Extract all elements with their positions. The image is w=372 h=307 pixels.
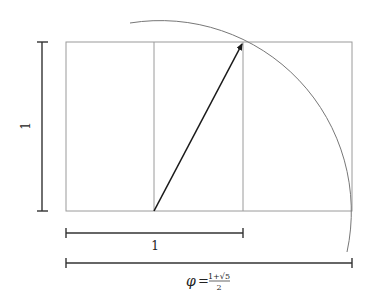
golden-ratio-diagram: 1 1 φ = 1+√5 2 — [0, 0, 372, 307]
phi-numerator: 1+√5 — [208, 272, 230, 281]
phi-denominator: 2 — [216, 283, 221, 292]
square-width-dimension — [66, 228, 243, 238]
vertical-side-label: 1 — [19, 122, 33, 130]
square-side-label: 1 — [151, 239, 159, 253]
phi-symbol: φ — [186, 273, 196, 289]
radius-arc — [130, 21, 351, 252]
radius-arrow — [154, 44, 242, 211]
vertical-dimension — [37, 42, 48, 211]
phi-formula: φ = 1+√5 2 — [186, 272, 230, 292]
golden-rectangle — [66, 42, 352, 211]
phi-dimension — [66, 258, 352, 268]
